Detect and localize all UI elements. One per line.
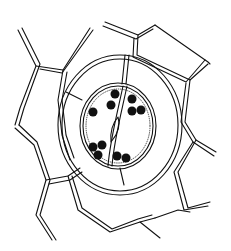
chloroplasts <box>89 90 146 163</box>
chloroplast <box>94 151 103 160</box>
chloroplast <box>89 143 98 152</box>
stoma-diagram <box>0 0 231 251</box>
chloroplast <box>89 108 98 117</box>
chloroplast <box>107 101 116 110</box>
chloroplast <box>98 141 107 150</box>
chloroplast <box>111 90 120 99</box>
chloroplast <box>128 107 137 116</box>
subsidiary-cell-ring <box>58 55 182 195</box>
chloroplast <box>122 154 131 163</box>
chloroplast <box>137 106 146 115</box>
chloroplast <box>128 95 137 104</box>
chloroplast <box>113 152 122 161</box>
